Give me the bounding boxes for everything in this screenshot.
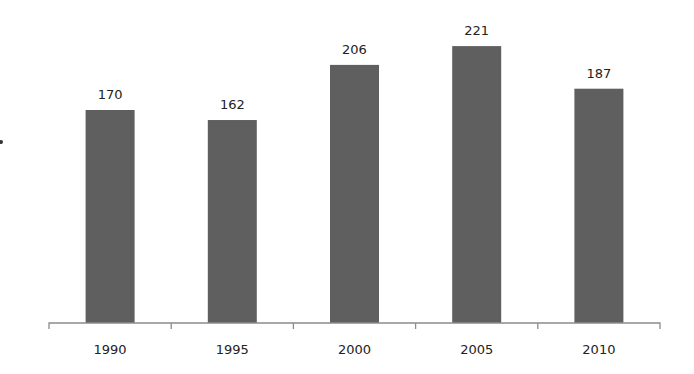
x-tick-label-2000: 2000	[338, 342, 371, 357]
x-tick-label-1990: 1990	[94, 342, 127, 357]
bar-2000	[330, 65, 379, 323]
x-tick-label-1995: 1995	[216, 342, 249, 357]
data-label-2010: 187	[586, 66, 611, 81]
x-axis-line	[49, 323, 660, 329]
x-axis	[49, 323, 660, 329]
data-label-2000: 206	[342, 42, 367, 57]
bar-chart: 170162206221187 19901995200020052010	[0, 0, 694, 374]
stray-mark	[0, 140, 3, 144]
bars-group	[86, 46, 624, 323]
x-tick-labels-group: 19901995200020052010	[94, 342, 616, 357]
x-tick-label-2005: 2005	[460, 342, 493, 357]
bar-1990	[86, 110, 135, 323]
data-label-2005: 221	[464, 23, 489, 38]
data-label-1995: 162	[220, 97, 245, 112]
x-tick-label-2010: 2010	[582, 342, 615, 357]
bar-2005	[452, 46, 501, 323]
bar-1995	[208, 120, 257, 323]
bar-2010	[574, 89, 623, 323]
data-label-1990: 170	[98, 87, 123, 102]
